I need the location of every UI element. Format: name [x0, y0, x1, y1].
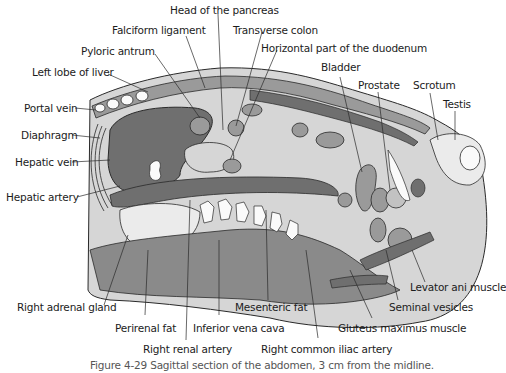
label-gluteus-maximus: Gluteus maximus muscle	[338, 322, 466, 334]
testis-shape	[460, 146, 480, 170]
label-hepatic-artery: Hepatic artery	[6, 191, 79, 203]
label-diaphragm: Diaphragm	[21, 129, 78, 141]
label-levator-ani: Levator ani muscle	[410, 281, 506, 293]
label-portal-vein: Portal vein	[24, 102, 78, 114]
label-left-lobe-liver: Left lobe of liver	[32, 66, 114, 78]
label-horizontal-duodenum: Horizontal part of the duodenum	[261, 42, 427, 54]
label-bladder: Bladder	[321, 61, 360, 73]
figure-caption: Figure 4-29 Sagittal section of the abdo…	[90, 359, 434, 371]
label-prostate: Prostate	[358, 79, 400, 91]
label-transverse-colon: Transverse colon	[233, 24, 318, 36]
label-head-of-pancreas: Head of the pancreas	[170, 4, 279, 16]
label-mesenteric-fat: Mesenteric fat	[235, 301, 307, 313]
label-inferior-vena-cava: Inferior vena cava	[193, 322, 285, 334]
label-right-adrenal-gland: Right adrenal gland	[17, 301, 117, 313]
label-scrotum: Scrotum	[413, 79, 456, 91]
label-seminal-vesicles: Seminal vesicles	[389, 301, 473, 313]
label-pyloric-antrum: Pyloric antrum	[81, 45, 155, 57]
label-right-renal-artery: Right renal artery	[143, 343, 232, 355]
label-testis: Testis	[443, 98, 471, 110]
label-perirenal-fat: Perirenal fat	[115, 322, 176, 334]
label-falciform-ligament: Falciform ligament	[112, 24, 206, 36]
label-hepatic-vein: Hepatic vein	[15, 156, 78, 168]
label-right-common-iliac-artery: Right common iliac artery	[261, 343, 392, 355]
